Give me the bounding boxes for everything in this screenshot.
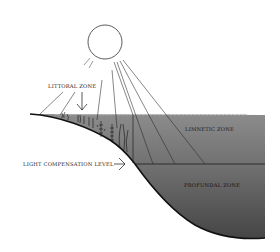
sun-icon [84,25,122,68]
profundal-zone-label: PROFUNDAL ZONE [184,182,240,188]
arrow-down-icon [77,92,87,110]
light-compensation-label: LIGHT COMPENSATION LEVEL [23,161,114,167]
lake-zonation-diagram: LITTORAL ZONE LIMNETIC ZONE LIGHT COMPEN… [0,0,280,252]
littoral-zone-label: LITTORAL ZONE [48,83,96,89]
water-surface [55,114,247,115]
arrow-right-icon [114,158,125,170]
water-body [30,114,265,238]
limnetic-zone-label: LIMNETIC ZONE [185,126,234,132]
